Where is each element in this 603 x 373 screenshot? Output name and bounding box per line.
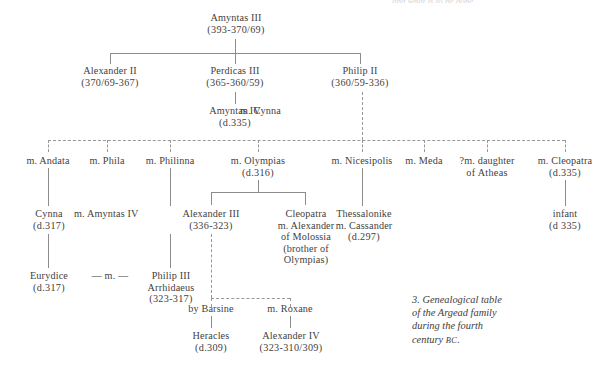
connector-alexander-iii-marriage-bus [211, 298, 290, 299]
connector-alexander-iii-marriage-stem [211, 234, 212, 298]
node-name: Philip III [136, 270, 206, 282]
node-name: m. Roxane [256, 303, 324, 315]
node-eurydice: Eurydice (d.317) [20, 270, 78, 293]
node-name: Philip II [300, 65, 420, 77]
node-dates: (d 335) [525, 220, 603, 232]
node-dates: (d.335) [521, 167, 603, 179]
node-name: Alexander II [50, 65, 170, 77]
connector-to-philip-iii [170, 234, 171, 268]
connector-audata-to-cynna [48, 168, 49, 206]
caption-era: BC [446, 336, 458, 345]
node-note-line1: (brother of [258, 243, 354, 255]
connector-drop-alexander-iii [211, 192, 212, 205]
node-cleopatra-wife: m. Cleopatra (d.335) [521, 155, 603, 178]
node-name: m. Olympias [208, 155, 308, 167]
node-roxane: m. Roxane [256, 303, 324, 315]
connector-drop-perdiccas-iii [235, 53, 236, 64]
caption-line-4: century BC. [412, 333, 572, 347]
connector-philinna-to-philip-iii [170, 168, 171, 206]
node-infant: infant (d 335) [525, 208, 603, 231]
connector-amyntas-stem [235, 39, 236, 54]
node-name: infant [525, 208, 603, 220]
node-name: Alexander III [166, 208, 256, 220]
node-olympias: m. Olympias (d.316) [208, 155, 308, 178]
node-dates: (d.335) [183, 117, 287, 129]
node-alexander-ii: Alexander II (370/69-367) [50, 65, 170, 88]
node-name: m. Philinna [128, 155, 212, 167]
connector-drop-alexander-ii [110, 53, 111, 64]
caption-line-1: 3. Genealogical table [412, 293, 572, 306]
clipped-header-text: and what is to be done. [392, 0, 476, 3]
node-note-line2: Olympias) [258, 254, 354, 266]
node-dates: (370/69-367) [50, 77, 170, 89]
node-cynna-spouse: m. Cynna [240, 105, 320, 117]
connector-drop-cleopatra [565, 140, 566, 152]
node-name: Eurydice [20, 270, 78, 282]
node-daughter-of-atheas: ?m. daughter of Atheas [441, 155, 533, 178]
node-dates: (d.316) [208, 167, 308, 179]
node-dates: (393-370/69) [176, 24, 296, 36]
node-barsine: by Barsine [177, 303, 245, 315]
connector-drop-phila [107, 140, 108, 152]
node-name: Amyntas III [176, 12, 296, 24]
node-dates: (365-360/59) [175, 77, 295, 89]
node-dates: (336-323) [166, 220, 256, 232]
connector-olympias-bus [211, 192, 305, 193]
connector-drop-nicesipolis [362, 140, 363, 152]
connector-drop-philinna [170, 140, 171, 152]
connector-philip-ii-marriage-stem [362, 92, 363, 140]
node-name-line2: of Atheas [441, 167, 533, 179]
node-cynna: Cynna (d.317) [20, 208, 78, 231]
node-thessalonike: Thessalonike m. Cassander (d.297) [320, 208, 408, 243]
connector-drop-meda [424, 140, 425, 152]
node-name: m. Cynna [240, 105, 320, 117]
node-philip-iii: Philip III Arrhidaeus (323-317) [136, 270, 206, 305]
node-name: — m. — [76, 270, 144, 282]
connector-drop-audata [48, 140, 49, 152]
node-dates: (d.317) [20, 220, 78, 232]
figure-caption: 3. Genealogical table of the Argead fami… [412, 293, 572, 347]
connector-drop-philip-ii [360, 53, 361, 64]
node-name: m. Cleopatra [521, 155, 603, 167]
node-name: ?m. daughter [441, 155, 533, 167]
connector-drop-atheas [487, 140, 488, 152]
connector-perdiccas-to-amyntas-iv [235, 92, 236, 104]
node-dates: (d.297) [320, 231, 408, 243]
node-alexander-iii: Alexander III (336-323) [166, 208, 256, 231]
connector-roxane-to-alexander-iv [290, 316, 291, 328]
node-heracles: Heracles (d.309) [177, 330, 245, 353]
node-name: Cynna [20, 208, 78, 220]
node-dates: (d.317) [20, 282, 78, 294]
node-alexander-iv: Alexander IV (323-310/309) [245, 330, 337, 353]
node-philip-ii: Philip II (360/59-336) [300, 65, 420, 88]
node-epithet: Arrhidaeus [136, 282, 206, 294]
node-m-amyntas-iv: m. Amyntas IV [74, 208, 164, 220]
caption-line-4-text: century [412, 334, 446, 345]
connector-drop-cleopatra-daughter [305, 192, 306, 205]
genealogical-chart: and what is to be done. Amyntas III (393… [0, 0, 603, 373]
node-philinna: m. Philinna [128, 155, 212, 167]
node-name: Alexander IV [245, 330, 337, 342]
caption-period: . [457, 334, 460, 345]
connector-nicesipolis-to-thessalonike [362, 168, 363, 206]
node-name: Thessalonike [320, 208, 408, 220]
connector-cynna-to-eurydice [48, 234, 49, 268]
node-name: Perdicas III [175, 65, 295, 77]
node-name: Heracles [177, 330, 245, 342]
node-dates: (323-310/309) [245, 342, 337, 354]
connector-barsine-to-heracles [211, 316, 212, 328]
node-amyntas-iii: Amyntas III (393-370/69) [176, 12, 296, 35]
marriage-link-label: — m. — [76, 270, 144, 282]
node-dates: (360/59-336) [300, 77, 420, 89]
caption-line-3: during the fourth [412, 319, 572, 332]
node-name: by Barsine [177, 303, 245, 315]
node-name: m. Amyntas IV [74, 208, 164, 220]
node-perdiccas-iii: Perdicas III (365-360/59) [175, 65, 295, 88]
node-spouse: m. Cassander [320, 220, 408, 232]
connector-olympias-stem [258, 180, 259, 192]
caption-line-2: of the Argead family [412, 306, 572, 319]
connector-drop-olympias [258, 140, 259, 152]
node-dates: (d.309) [177, 342, 245, 354]
connector-cleopatra-to-infant [565, 180, 566, 206]
